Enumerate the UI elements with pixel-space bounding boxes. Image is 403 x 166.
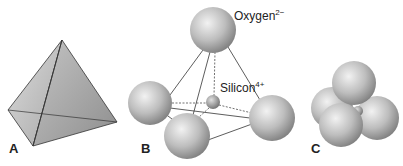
silicon-label: Silicon4+: [220, 80, 265, 95]
oxygen-sphere-right: [249, 95, 295, 141]
panel-label-c: C: [311, 141, 321, 156]
oxygen-label: Oxygen2−: [234, 8, 285, 23]
panel-b-ball-and-stick: Oxygen2− Silicon4+ B: [128, 7, 295, 159]
oxygen-sphere-left: [128, 81, 172, 125]
oxygen-sphere-front: [164, 113, 210, 159]
oxygen-sphere-front: [319, 103, 363, 147]
figure-canvas: A Oxygen2− Silicon4+ B: [0, 0, 403, 166]
panel-label-b: B: [141, 141, 150, 156]
silicon-sphere: [206, 95, 220, 109]
oxygen-sphere-top: [190, 7, 236, 53]
oxygen-sphere-top: [332, 61, 376, 105]
panel-a-tetrahedron: A: [8, 40, 117, 156]
panel-c-space-filling: C: [311, 61, 399, 156]
panel-label-a: A: [9, 141, 19, 156]
